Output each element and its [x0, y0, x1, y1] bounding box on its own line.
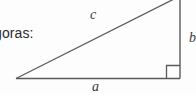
hypotenuse-label: c — [90, 8, 96, 22]
height-label: b — [189, 31, 196, 45]
right-angle-marker-icon — [167, 66, 181, 79]
base-label: a — [92, 80, 99, 94]
triangle-hypotenuse-line — [16, 0, 182, 79]
pythagoras-figure: goras: c a b — [0, 0, 196, 95]
figure-caption: goras: — [0, 25, 34, 41]
